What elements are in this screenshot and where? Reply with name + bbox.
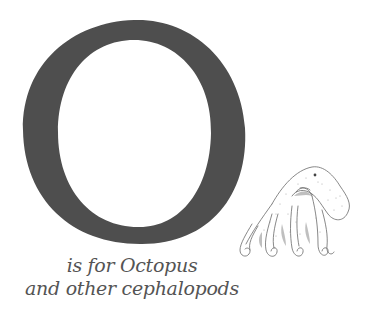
caption-line-1: is for Octopus <box>0 254 264 276</box>
alphabet-page: is for Octopus and other cephalopods <box>0 0 371 323</box>
caption-line-2: and other cephalopods <box>0 277 264 299</box>
